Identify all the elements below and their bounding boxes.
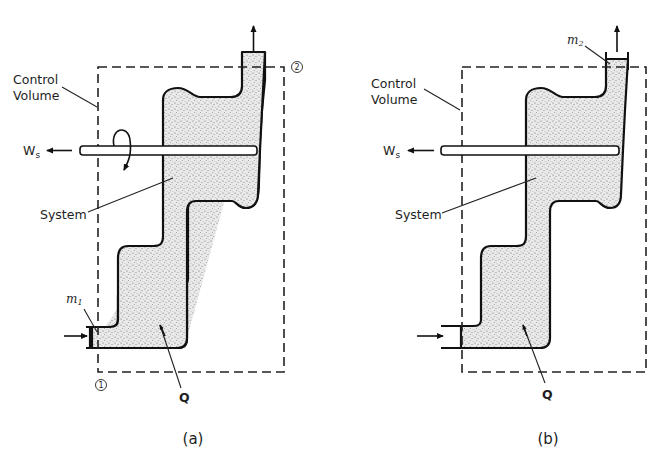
control-volume-label-line1: Control — [371, 76, 416, 91]
caption-a: (a) — [183, 430, 204, 448]
shaft — [80, 146, 257, 155]
svg-text:2: 2 — [294, 63, 299, 72]
system-label: System — [40, 207, 87, 222]
control-volume-label-line2: Volume — [13, 88, 60, 103]
svg-text:1: 1 — [98, 381, 103, 390]
system-leader — [88, 178, 173, 212]
system-leader — [442, 178, 536, 213]
shaft — [441, 146, 619, 155]
heat-label: Q — [179, 390, 190, 405]
shaft-work-label: Ws — [23, 143, 40, 160]
control-volume-label-line1: Control — [13, 72, 58, 87]
m1-label: m1 — [66, 292, 82, 307]
heat-label: Q — [542, 387, 553, 402]
system-body — [461, 59, 628, 348]
panel-b: Control Volume Ws System m2 Q (b) — [371, 26, 646, 448]
station-1-marker: 1 — [96, 380, 107, 391]
control-volume-leader — [62, 87, 97, 107]
caption-b: (b) — [537, 430, 558, 448]
control-volume-diagram: Control Volume Ws System m1 Q 1 2 (a) — [0, 0, 667, 464]
system-label: System — [395, 207, 442, 222]
station-2-marker: 2 — [292, 62, 303, 73]
m2-label: m2 — [567, 33, 583, 48]
panel-a: Control Volume Ws System m1 Q 1 2 (a) — [13, 26, 303, 448]
control-volume-label-line2: Volume — [371, 92, 418, 107]
control-volume-leader — [424, 89, 460, 110]
shaft-work-label: Ws — [383, 143, 400, 160]
